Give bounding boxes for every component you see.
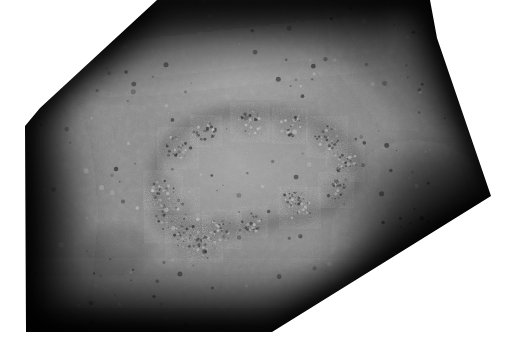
photograph-svg <box>0 0 509 353</box>
image-viewport: Grayscale close-up clinical photograph o… <box>0 0 509 353</box>
clinical-photograph <box>0 0 509 353</box>
